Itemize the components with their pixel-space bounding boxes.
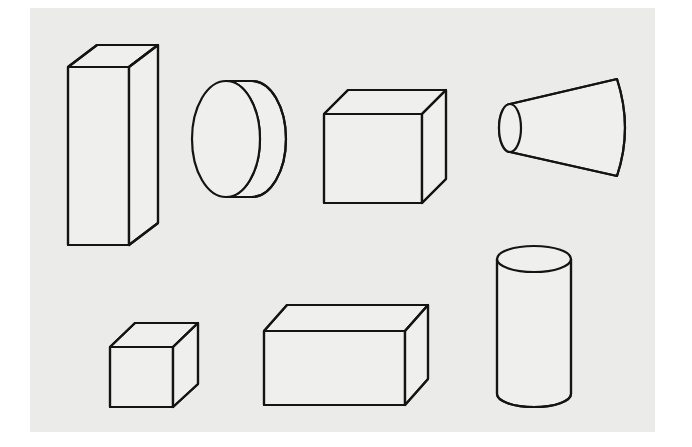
prism-front-face [68, 67, 129, 245]
shape-cube-small [110, 323, 198, 407]
cylinder-top-ellipse [497, 246, 571, 272]
small-cube-front-face [110, 347, 173, 407]
geometric-solids-figure: Line drawings of eight geometric solids [0, 0, 692, 447]
cube-front-face [324, 114, 422, 203]
wide-box-front-face [264, 331, 405, 405]
shape-upright-cylinder [497, 246, 571, 407]
figure-canvas [0, 0, 692, 447]
shape-disc-cylinder [192, 81, 286, 197]
shape-wide-rectangular-box [264, 305, 428, 405]
frustum-small-ellipse [499, 104, 521, 152]
disc-front-ellipse [192, 81, 260, 197]
shape-tall-rectangular-prism [68, 45, 158, 245]
wide-box-top-face [264, 305, 428, 331]
cylinder-body [497, 259, 571, 407]
prism-right-face [129, 45, 158, 245]
shape-cube-large [324, 90, 446, 203]
